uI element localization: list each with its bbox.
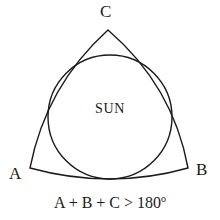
sun-label: SUN	[0, 102, 220, 116]
figure-container: C A B SUN A + B + C > 180o	[0, 0, 220, 220]
caption-expression: A + B + C > 180	[54, 194, 161, 211]
vertex-label-b: B	[196, 161, 207, 178]
degree-symbol: o	[161, 193, 166, 204]
vertex-label-a: A	[9, 165, 21, 182]
sun-circle	[48, 55, 172, 179]
vertex-label-c: C	[100, 3, 111, 20]
caption: A + B + C > 180o	[0, 194, 220, 212]
